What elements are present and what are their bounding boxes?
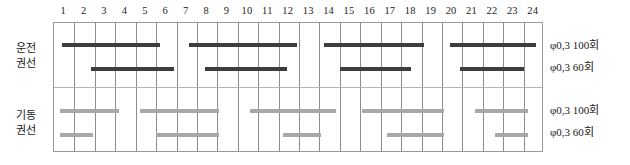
- bar-g1-s0-3: [362, 109, 444, 113]
- row-label-starting-line2: 권선: [0, 123, 52, 138]
- gantt-chart: 123456789101112131415161718192021222324 …: [0, 0, 630, 165]
- row-label-operating-winding: 운전 권선: [0, 41, 52, 71]
- bar-g1-s1-4: [495, 133, 528, 137]
- legend-starting-100: φ0,3 100회: [550, 103, 599, 117]
- bar-g1-s0-2: [250, 109, 336, 113]
- row-label-operating-line2: 권선: [0, 56, 52, 71]
- bar-g0-s0-2: [324, 43, 424, 47]
- legend-operating-100: φ0,3 100회: [550, 38, 599, 52]
- bar-g0-s0-0: [62, 43, 160, 47]
- bar-g1-s0-4: [475, 109, 528, 113]
- legend-starting-60: φ0,3 60회: [550, 125, 594, 139]
- legend-operating-60: φ0,3 60회: [550, 60, 594, 74]
- bar-g1-s0-0: [60, 109, 119, 113]
- bar-g0-s1-3: [460, 67, 523, 71]
- x-tick-24: 24: [521, 4, 545, 18]
- row-label-starting-winding: 기동 권선: [0, 108, 52, 138]
- plot-area: [53, 22, 543, 152]
- bar-g1-s0-1: [140, 109, 220, 113]
- bar-g1-s1-2: [283, 133, 322, 137]
- bar-g0-s1-2: [340, 67, 411, 71]
- bar-g1-s1-3: [387, 133, 444, 137]
- x-axis-tick-labels: 123456789101112131415161718192021222324: [53, 4, 543, 20]
- bar-g0-s0-1: [189, 43, 297, 47]
- row-label-operating-line1: 운전: [0, 41, 52, 56]
- bars-layer: [54, 23, 542, 151]
- bar-g1-s1-1: [156, 133, 219, 137]
- bar-g1-s1-0: [60, 133, 93, 137]
- bar-g0-s1-0: [91, 67, 175, 71]
- bar-g0-s0-3: [450, 43, 536, 47]
- bar-g0-s1-1: [205, 67, 287, 71]
- row-label-starting-line1: 기동: [0, 108, 52, 123]
